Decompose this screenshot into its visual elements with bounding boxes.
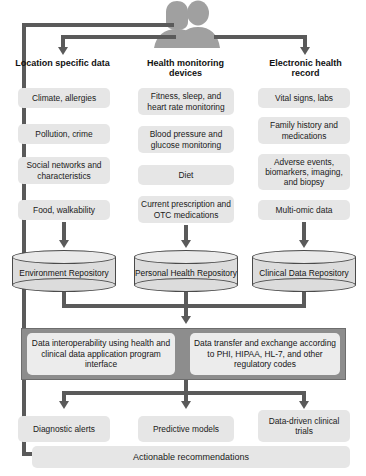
merge-stub-left xyxy=(62,292,66,304)
data-chip-label: Family history and medications xyxy=(261,120,347,140)
data-chip: Multi-omic data xyxy=(258,200,350,220)
feedback-loop-top-line xyxy=(22,23,174,27)
fanout-arrowhead-right xyxy=(299,401,309,409)
outcome-chip-clinical-trials: Data-driven clinical trials xyxy=(258,410,350,442)
interoperability-right-label: Data transfer and exchange according to … xyxy=(193,338,337,370)
interoperability-right-box: Data transfer and exchange according to … xyxy=(190,333,340,375)
merge-arrowhead xyxy=(181,316,191,324)
repository-label: Personal Health Repository xyxy=(134,259,238,287)
data-chip: Vital signs, labs xyxy=(258,88,350,108)
merge-stub-middle xyxy=(184,292,188,304)
actionable-recommendations-bar: Actionable recommendations xyxy=(32,446,350,468)
repository-clinical-data: Clinical Data Repository xyxy=(252,250,356,292)
repository-label: Clinical Data Repository xyxy=(252,259,356,287)
data-chip-label: Multi-omic data xyxy=(276,205,333,215)
merge-stub-right xyxy=(302,292,306,304)
interoperability-left-label: Data interoperability using health and c… xyxy=(30,338,172,370)
branch-right-arrowhead xyxy=(300,47,310,55)
connector-col3-to-repo xyxy=(302,222,306,242)
data-chip: Diet xyxy=(138,165,234,185)
fanout-stem xyxy=(184,380,188,391)
data-chip: Climate, allergies xyxy=(18,88,110,108)
actionable-recommendations-label: Actionable recommendations xyxy=(133,452,249,462)
outcome-chip-label: Diagnostic alerts xyxy=(33,424,95,434)
fanout-arrowhead-left xyxy=(59,401,69,409)
outcome-chip-label: Predictive models xyxy=(153,424,219,434)
connector-col3-arrowhead xyxy=(299,240,309,248)
column-header-label: Location specific data xyxy=(15,58,110,68)
data-chip-label: Pollution, crime xyxy=(35,129,92,139)
connector-col2-arrowhead xyxy=(181,240,191,248)
column-header-devices: Health monitoring devices xyxy=(138,58,233,82)
data-chip: Food, walkability xyxy=(18,200,110,220)
data-chip-label: Social networks and characteristics xyxy=(21,160,107,180)
repository-environment: Environment Repository xyxy=(12,250,116,292)
connector-col1-arrowhead xyxy=(59,240,69,248)
outcome-chip-diagnostic-alerts: Diagnostic alerts xyxy=(18,416,110,442)
data-chip-label: Fitness, sleep, and heart rate monitorin… xyxy=(141,91,231,111)
fanout-arrowhead-middle xyxy=(181,401,191,409)
interoperability-left-box: Data interoperability using health and c… xyxy=(27,333,175,375)
branch-left-arrowhead xyxy=(58,47,68,55)
diagram-canvas: Location specific data Health monitoring… xyxy=(0,0,366,476)
data-chip-label: Adverse events, biomarkers, imaging, and… xyxy=(261,157,347,188)
outcome-chip-label: Data-driven clinical trials xyxy=(261,416,347,436)
repository-personal-health: Personal Health Repository xyxy=(134,250,238,292)
data-chip-label: Diet xyxy=(179,170,194,180)
connector-col1-to-repo xyxy=(62,222,66,242)
data-chip-label: Vital signs, labs xyxy=(275,93,333,103)
column-header-location: Location specific data xyxy=(15,58,110,82)
column-header-ehr: Electronic health record xyxy=(258,58,353,82)
data-chip: Fitness, sleep, and heart rate monitorin… xyxy=(138,88,234,115)
data-chip: Social networks and characteristics xyxy=(18,157,110,184)
outcome-chip-predictive-models: Predictive models xyxy=(138,416,234,442)
branch-right-horizontal xyxy=(214,35,307,39)
branch-left-horizontal xyxy=(61,35,176,39)
data-chip-label: Climate, allergies xyxy=(32,93,96,103)
data-chip-label: Food, walkability xyxy=(33,205,95,215)
repository-label: Environment Repository xyxy=(12,259,116,287)
data-chip-label: Current prescription and OTC medications xyxy=(141,199,231,219)
data-chip: Current prescription and OTC medications xyxy=(138,196,234,223)
data-chip: Family history and medications xyxy=(258,117,350,144)
column-header-label: Electronic health record xyxy=(258,58,353,79)
data-chip: Pollution, crime xyxy=(18,124,110,144)
data-chip-label: Blood pressure and glucose monitoring xyxy=(141,129,231,149)
data-chip: Blood pressure and glucose monitoring xyxy=(138,126,234,153)
interoperability-band: Data interoperability using health and c… xyxy=(21,328,346,380)
column-header-label: Health monitoring devices xyxy=(138,58,233,79)
data-chip: Adverse events, biomarkers, imaging, and… xyxy=(258,154,350,190)
